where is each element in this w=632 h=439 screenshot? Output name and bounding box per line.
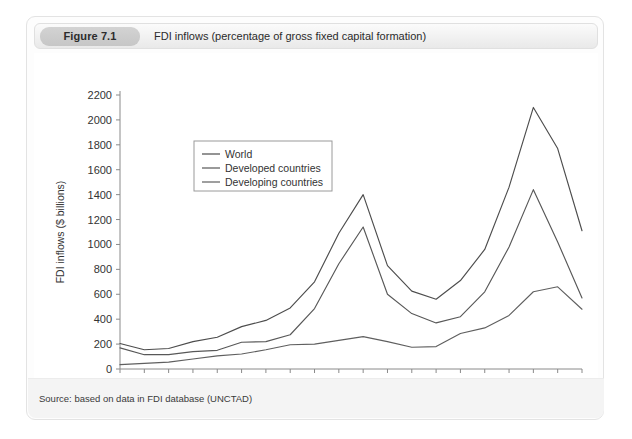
legend-label-world: World xyxy=(225,148,252,160)
line-chart: 0200400600800100012001400160018002000220… xyxy=(34,53,598,379)
series-line-world xyxy=(120,107,582,349)
y-axis-title: FDI inflows ($ billions) xyxy=(54,181,66,284)
y-axis-tick-label: 1200 xyxy=(88,214,112,226)
y-axis-tick-label: 800 xyxy=(94,263,112,275)
y-axis-tick-label: 600 xyxy=(94,288,112,300)
figure-header: Figure 7.1 FDI inflows (percentage of gr… xyxy=(34,23,598,49)
y-axis-tick-label: 200 xyxy=(94,338,112,350)
y-axis-tick-label: 1800 xyxy=(88,139,112,151)
figure-footer: Source: based on data in FDI database (U… xyxy=(28,378,604,418)
legend-label-developed-countries: Developed countries xyxy=(225,162,321,174)
figure-card: Figure 7.1 FDI inflows (percentage of gr… xyxy=(26,16,604,420)
figure-caption: FDI inflows (percentage of gross fixed c… xyxy=(154,30,426,42)
y-axis-tick-label: 0 xyxy=(106,363,112,375)
y-axis-tick-label: 400 xyxy=(94,313,112,325)
chart-plot-area: 0200400600800100012001400160018002000220… xyxy=(34,53,598,379)
figure-source-note: Source: based on data in FDI database (U… xyxy=(39,393,252,404)
y-axis-tick-label: 1000 xyxy=(88,238,112,250)
legend-label-developing-countries: Developing countries xyxy=(225,176,323,188)
y-axis-tick-label: 1400 xyxy=(88,189,112,201)
y-axis-tick-label: 2000 xyxy=(88,114,112,126)
screenshot-root: Figure 7.1 FDI inflows (percentage of gr… xyxy=(0,0,632,439)
y-axis-tick-label: 1600 xyxy=(88,164,112,176)
figure-number-badge: Figure 7.1 xyxy=(40,27,140,46)
y-axis-tick-label: 2200 xyxy=(88,89,112,101)
series-line-developing-countries xyxy=(120,287,582,365)
